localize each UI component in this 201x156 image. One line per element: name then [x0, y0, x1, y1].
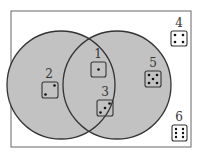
label-4: 4 — [173, 17, 185, 29]
label-5: 5 — [147, 57, 159, 69]
venn-diagram: 1 2 3 4 5 6 — [0, 0, 201, 156]
label-6: 6 — [173, 111, 185, 123]
die-four-icon — [171, 31, 187, 46]
label-1: 1 — [92, 48, 104, 60]
label-3: 3 — [99, 86, 111, 98]
venn-graphic — [0, 0, 201, 156]
label-2: 2 — [43, 68, 55, 80]
die-six-icon — [172, 125, 187, 141]
